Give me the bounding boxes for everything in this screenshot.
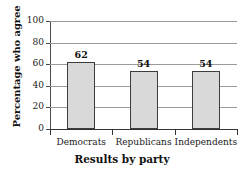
bar xyxy=(192,71,220,129)
x-tick-mark xyxy=(237,130,238,135)
y-tick-label: 100 xyxy=(0,16,44,25)
x-tick-mark xyxy=(50,130,51,135)
y-tick-label: 80 xyxy=(0,38,44,47)
grid-line xyxy=(50,43,237,44)
plot-area: 625454 xyxy=(50,21,237,129)
bar-value-label: 54 xyxy=(124,58,164,69)
bar xyxy=(67,62,95,129)
bar-value-label: 62 xyxy=(61,49,101,60)
y-tick-label: 20 xyxy=(0,102,44,111)
y-tick-label: 0 xyxy=(0,124,44,133)
x-tick-mark xyxy=(112,130,113,135)
grid-line xyxy=(50,129,237,130)
bar-value-label: 54 xyxy=(186,58,226,69)
y-tick-label: 40 xyxy=(0,81,44,90)
x-tick-mark xyxy=(175,130,176,135)
y-tick-label: 60 xyxy=(0,59,44,68)
bar xyxy=(130,71,158,129)
bar-chart: Percentage who agree 020406080100 625454… xyxy=(0,0,244,174)
grid-line xyxy=(50,21,237,22)
x-axis-title: Results by party xyxy=(0,153,244,165)
x-tick-label: Independents xyxy=(166,137,244,147)
